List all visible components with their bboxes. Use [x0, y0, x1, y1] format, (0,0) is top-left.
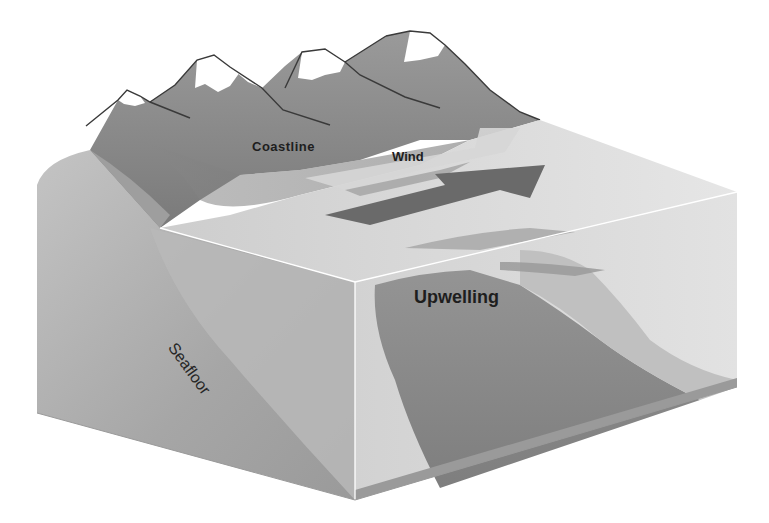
label-coastline: Coastline [252, 140, 315, 153]
coastal-upwelling-diagram: Coastline Wind Upwelling Seafloor [0, 0, 769, 523]
label-upwelling: Upwelling [414, 288, 499, 306]
label-wind: Wind [392, 150, 424, 163]
diagram-canvas [0, 0, 769, 523]
